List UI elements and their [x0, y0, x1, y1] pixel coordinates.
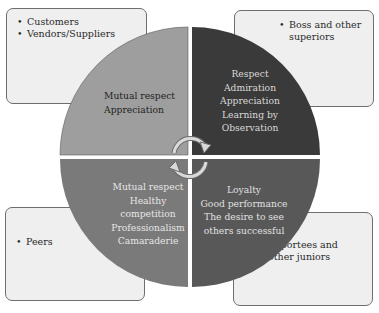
value-label: Learning by [205, 108, 295, 122]
value-label: Respect [205, 67, 295, 81]
value-label: Admiration [205, 81, 295, 95]
quadrant-text-top-right: Respect Admiration Appreciation Learning… [205, 67, 295, 135]
value-label: The desire to see [196, 210, 292, 224]
quadrant-text-bottom-right: Loyalty Good performance The desire to s… [196, 183, 292, 237]
quadrant-text-bottom-left: Mutual respect Healthy competition Profe… [108, 180, 188, 248]
value-label: competition [108, 207, 188, 221]
value-label: Mutual respect [104, 89, 184, 103]
value-label: Observation [205, 121, 295, 135]
value-label: Appreciation [205, 94, 295, 108]
value-label: Healthy [108, 194, 188, 208]
value-label: Loyalty [196, 183, 292, 197]
value-label: Mutual respect [108, 180, 188, 194]
value-label: Professionalism [108, 221, 188, 235]
relationship-wheel [0, 0, 379, 313]
quadrant-text-top-left: Mutual respect Appreciation [104, 89, 184, 116]
value-label: Appreciation [104, 103, 184, 117]
value-label: Camaraderie [108, 234, 188, 248]
value-label: others successful [196, 224, 292, 238]
value-label: Good performance [196, 197, 292, 211]
